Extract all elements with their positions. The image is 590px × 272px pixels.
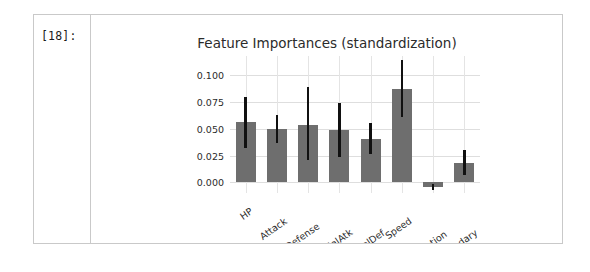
error-bar xyxy=(244,97,247,148)
gridline xyxy=(230,102,480,103)
error-bar xyxy=(276,115,279,143)
error-bar xyxy=(307,87,310,160)
cell-output-area: Feature Importances (standardization) 0.… xyxy=(91,15,562,243)
error-bar xyxy=(432,184,435,189)
error-bar xyxy=(369,123,372,154)
y-tick-label: 0.075 xyxy=(197,97,224,108)
x-tick-label: Generation xyxy=(399,228,449,243)
x-tick-label: Attack xyxy=(258,215,289,241)
x-tick-label: HP xyxy=(237,205,254,221)
vertical-gridline xyxy=(433,56,434,193)
error-bar xyxy=(338,103,341,157)
x-tick-label: Speed xyxy=(383,215,414,241)
error-bar xyxy=(463,150,466,175)
y-tick-label: 0.100 xyxy=(197,70,224,81)
matplotlib-figure: Feature Importances (standardization) 0.… xyxy=(91,15,562,243)
prompt-gutter: [18]: xyxy=(34,15,91,243)
error-bar xyxy=(401,60,404,117)
notebook-cell: [18]: Feature Importances (standardizati… xyxy=(33,14,563,244)
execution-count-label: [18]: xyxy=(41,29,77,43)
y-tick-label: 0.025 xyxy=(197,150,224,161)
chart-title: Feature Importances (standardization) xyxy=(91,35,562,51)
y-tick-label: 0.050 xyxy=(197,123,224,134)
y-tick-label: 0.000 xyxy=(197,177,224,188)
plot-axes: 0.0000.0250.0500.0750.100 HPAttackDefens… xyxy=(230,56,480,193)
gridline xyxy=(230,75,480,76)
